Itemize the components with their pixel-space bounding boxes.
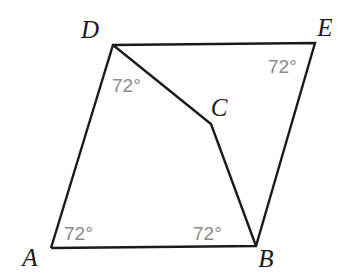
vertex-label-d: D: [80, 16, 99, 43]
angle-label-at-d: 72°: [112, 75, 141, 96]
angle-label-at-b: 72°: [193, 223, 222, 244]
vertex-label-e: E: [316, 14, 332, 41]
geometry-figure: A B C D E 72° 72° 72° 72°: [0, 0, 360, 279]
angle-label-at-a: 72°: [64, 223, 93, 244]
vertex-label-a: A: [20, 244, 38, 271]
figure-canvas: A B C D E 72° 72° 72° 72°: [0, 0, 360, 279]
angle-label-at-e: 72°: [268, 56, 297, 77]
vertex-label-c: C: [211, 94, 228, 121]
vertex-label-b: B: [258, 245, 273, 272]
